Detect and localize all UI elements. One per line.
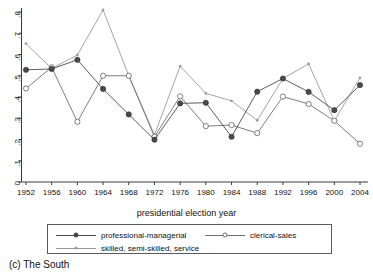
chart-legend: professional-managerial clerical-sales s…	[47, 224, 332, 254]
y-axis-tick-label: .7	[14, 32, 22, 50]
legend-swatch-small-dot-icon	[56, 243, 96, 253]
y-axis-tick-.4: .4	[4, 92, 18, 102]
y-axis-tick-.5: .5	[4, 71, 18, 81]
chart-canvas	[0, 0, 373, 200]
y-axis-tick-0: 0	[4, 177, 18, 187]
y-axis-tick-.7: .7	[4, 28, 18, 38]
series-clerical-sales	[23, 65, 362, 147]
figure: 0.1.2.3.4.5.6.7.8 1952195619601964196819…	[0, 0, 373, 275]
legend-label-skilled-semi-skilled-service: skilled, semi-skilled, service	[101, 244, 199, 253]
legend-item-professional-managerial: professional-managerial	[56, 228, 186, 242]
legend-item-skilled-semi-skilled-service: skilled, semi-skilled, service	[56, 241, 199, 255]
y-axis-tick-.6: .6	[4, 50, 18, 60]
chart-plot-area: 0.1.2.3.4.5.6.7.8 1952195619601964196819…	[0, 0, 373, 200]
y-axis-tick-label: .4	[14, 96, 22, 114]
legend-label-professional-managerial: professional-managerial	[101, 231, 186, 240]
x-axis-tick-label-2004: 2004	[345, 188, 373, 197]
y-axis-tick-label: .3	[14, 117, 22, 135]
figure-caption: (c) The South	[9, 259, 69, 270]
legend-label-clerical-sales: clerical-sales	[250, 231, 296, 240]
x-axis-title: presidential election year	[0, 208, 373, 218]
y-axis-tick-label: .8	[14, 11, 22, 29]
y-axis-tick-label: .2	[14, 139, 22, 157]
y-axis-tick-.8: .8	[4, 7, 18, 17]
y-axis-tick-.3: .3	[4, 113, 18, 123]
y-axis-tick-label: .6	[14, 54, 22, 72]
legend-swatch-filled-circle-icon	[56, 230, 96, 240]
y-axis-tick-.2: .2	[4, 135, 18, 145]
y-axis-tick-label: .5	[14, 75, 22, 93]
data-series-group	[23, 9, 362, 147]
y-axis-tick-.1: .1	[4, 156, 18, 166]
y-axis-tick-label: .1	[14, 160, 22, 178]
legend-item-clerical-sales: clerical-sales	[205, 228, 296, 242]
legend-swatch-open-circle-icon	[205, 230, 245, 240]
